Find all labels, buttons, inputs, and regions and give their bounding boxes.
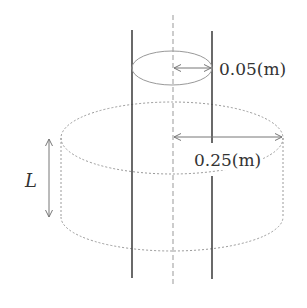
outer-radius-label: 0.25(m) xyxy=(193,150,262,170)
diagram-canvas: 0.05(m) 0.25(m) L xyxy=(0,0,307,308)
inner-radius-label: 0.05(m) xyxy=(219,59,286,79)
outer-bottom-arc xyxy=(61,217,283,251)
outer-cylinder xyxy=(61,102,283,251)
length-label: L xyxy=(25,170,37,191)
